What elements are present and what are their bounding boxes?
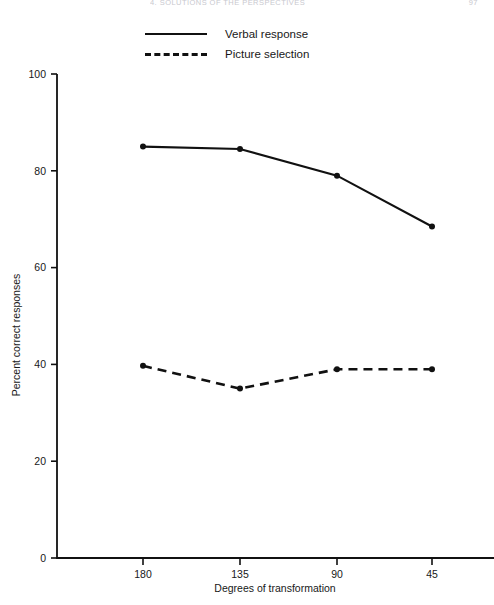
data-point-marker xyxy=(237,386,243,392)
data-point-marker xyxy=(237,146,243,152)
y-tick-label: 40 xyxy=(34,358,46,370)
series-line-picture-selection xyxy=(143,366,432,389)
y-tick-label: 80 xyxy=(34,165,46,177)
series-line-verbal-response xyxy=(143,147,432,227)
x-axis-ticks: 1801359045 xyxy=(134,558,438,580)
data-point-marker xyxy=(429,366,435,372)
data-point-marker xyxy=(334,366,340,372)
chart-series-layer xyxy=(140,144,435,392)
y-tick-label: 100 xyxy=(28,68,46,80)
data-point-marker xyxy=(140,144,146,150)
y-tick-label: 60 xyxy=(34,261,46,273)
x-tick-label: 135 xyxy=(231,568,249,580)
x-tick-label: 90 xyxy=(331,568,343,580)
chart-plot-area: 020406080100 1801359045 Degrees of trans… xyxy=(0,0,494,605)
data-point-marker xyxy=(429,223,435,229)
chart-axes xyxy=(57,74,494,558)
y-axis-ticks: 020406080100 xyxy=(28,68,57,564)
y-tick-label: 0 xyxy=(40,552,46,564)
data-point-marker xyxy=(334,173,340,179)
x-tick-label: 180 xyxy=(134,568,152,580)
y-axis-title: Percent correct responses xyxy=(10,274,22,397)
data-point-marker xyxy=(140,363,146,369)
x-axis-title: Degrees of transformation xyxy=(214,582,336,594)
y-tick-label: 20 xyxy=(34,455,46,467)
x-tick-label: 45 xyxy=(426,568,438,580)
figure-root: 4. SOLUTIONS OF THE PERSPECTIVES 97 Verb… xyxy=(0,0,494,605)
